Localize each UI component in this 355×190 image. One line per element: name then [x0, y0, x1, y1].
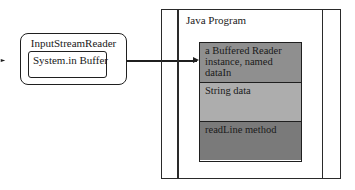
buffered-reader-instance-section: a Buffered Reader instance, named dataIn: [200, 43, 301, 83]
frame-left-divider: [177, 10, 179, 178]
readline-method-section: readLine method: [200, 122, 301, 160]
string-data-section: String data: [200, 83, 301, 122]
java-program-title: Java Program: [186, 14, 246, 26]
input-stream-reader-title: InputStreamReader: [21, 37, 126, 49]
incoming-arrow-icon: [0, 59, 6, 62]
system-in-buffer-label: System.in Buffer: [33, 54, 108, 66]
buffered-reader-stack: a Buffered Reader instance, named dataIn…: [199, 42, 302, 162]
frame-right-divider: [322, 10, 324, 178]
input-stream-reader-box: InputStreamReader System.in Buffer: [20, 33, 127, 85]
system-in-buffer-box: System.in Buffer: [28, 51, 107, 78]
